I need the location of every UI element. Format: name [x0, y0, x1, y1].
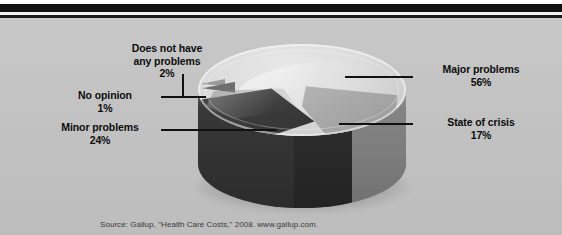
callout-state-of-crisis-percent: 17% [418, 129, 544, 142]
source-note: Source: Gallup, "Health Care Costs," 200… [100, 220, 318, 229]
callout-does-not-have-line2: any problems [133, 55, 200, 67]
leader-line-state-of-crisis [339, 123, 413, 125]
pie-chart-figure: Does not have any problems 2% No opinion… [0, 0, 562, 235]
callout-no-opinion: No opinion 1% [52, 89, 158, 114]
callout-major-problems-label: Major problems [443, 63, 520, 75]
callout-minor-problems: Minor problems 24% [42, 121, 158, 146]
callout-minor-problems-label: Minor problems [61, 121, 138, 133]
callout-does-not-have-line1: Does not have [132, 42, 202, 54]
leader-line-minor-problems [161, 129, 277, 131]
leader-line-major-problems [345, 76, 413, 78]
callout-does-not-have-percent: 2% [108, 67, 226, 80]
callout-state-of-crisis-label: State of crisis [447, 116, 514, 128]
callout-minor-problems-percent: 24% [42, 134, 158, 147]
callout-does-not-have-any-problems: Does not have any problems 2% [108, 42, 226, 80]
callout-major-problems: Major problems 56% [418, 63, 544, 88]
callout-major-problems-percent: 56% [418, 76, 544, 89]
callout-no-opinion-percent: 1% [52, 102, 158, 115]
top-rule-primary [0, 4, 562, 12]
callout-no-opinion-label: No opinion [78, 89, 132, 101]
chart-plate: Does not have any problems 2% No opinion… [0, 18, 562, 235]
leader-line-no-opinion [161, 96, 206, 98]
callout-state-of-crisis: State of crisis 17% [418, 116, 544, 141]
